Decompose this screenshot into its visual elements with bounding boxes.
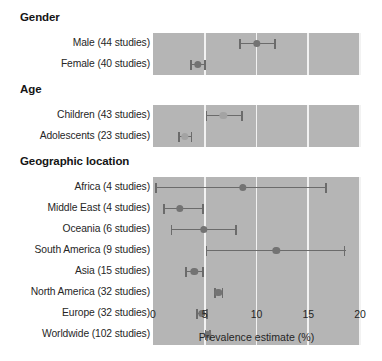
x-tick-label: 10: [251, 308, 263, 320]
row-label: Female (40 studies): [61, 58, 150, 69]
ci-cap-lower: [171, 225, 173, 235]
x-tick-label: 5: [202, 308, 208, 320]
point-estimate-marker: [176, 205, 183, 212]
row-label: Europe (32 studies): [62, 307, 150, 318]
forest-row-marker: [153, 182, 360, 194]
point-estimate-marker: [181, 133, 188, 140]
point-estimate-marker: [253, 40, 260, 47]
ci-cap-lower: [206, 111, 208, 121]
group-heading: Geographic location: [20, 155, 129, 167]
forest-row-marker: [153, 224, 360, 236]
x-tick-label: 0: [150, 308, 156, 320]
group-heading: Gender: [20, 11, 60, 23]
row-label: Oceania (6 studies): [63, 223, 150, 234]
x-tick-label: 15: [302, 308, 314, 320]
x-axis: 05101520: [153, 305, 360, 306]
ci-cap-upper: [325, 183, 327, 193]
forest-row-marker: [153, 245, 360, 257]
group-heading: Age: [20, 83, 41, 95]
point-estimate-marker: [239, 184, 246, 191]
ci-cap-upper: [202, 204, 204, 214]
forest-row-marker: [153, 110, 360, 122]
ci-cap-lower: [155, 183, 157, 193]
forest-row-marker: [153, 203, 360, 215]
row-label: Worldwide (102 studies): [42, 328, 150, 339]
ci-cap-upper: [235, 225, 237, 235]
row-label: Asia (15 studies): [75, 265, 150, 276]
ci-cap-upper: [202, 267, 204, 277]
ci-cap-lower: [178, 132, 180, 142]
ci-cap-lower: [190, 60, 192, 70]
ci-cap-lower: [239, 39, 241, 49]
ci-cap-upper: [344, 246, 346, 256]
ci-cap-lower: [185, 267, 187, 277]
point-estimate-marker: [200, 226, 207, 233]
confidence-interval-line: [163, 208, 203, 210]
ci-cap-upper: [274, 39, 276, 49]
row-label: South America (9 studies): [35, 244, 150, 255]
point-estimate-marker: [191, 268, 198, 275]
row-label: North America (32 studies): [31, 286, 150, 297]
point-estimate-marker: [194, 61, 201, 68]
point-estimate-marker: [272, 247, 279, 254]
ci-cap-lower: [163, 204, 165, 214]
forest-row-marker: [153, 131, 360, 143]
ci-cap-upper: [241, 111, 243, 121]
row-label: Africa (4 studies): [75, 181, 150, 192]
ci-cap-lower: [206, 246, 208, 256]
ci-cap-upper: [222, 288, 224, 298]
row-label: Male (44 studies): [73, 37, 150, 48]
row-label: Middle East (4 studies): [48, 202, 150, 213]
point-estimate-marker: [220, 112, 227, 119]
forest-row-marker: [153, 266, 360, 278]
ci-cap-upper: [204, 60, 206, 70]
row-label: Adolescents (23 studies): [40, 130, 150, 141]
x-tick-label: 20: [354, 308, 366, 320]
forest-row-marker: [153, 287, 360, 299]
ci-cap-upper: [191, 132, 193, 142]
forest-row-marker: [153, 59, 360, 71]
x-axis-title: Prevalence estimate (%): [153, 331, 360, 343]
forest-row-marker: [153, 38, 360, 50]
row-label: Children (43 studies): [57, 109, 150, 120]
forest-plot-figure: GenderMale (44 studies)Female (40 studie…: [0, 0, 382, 361]
